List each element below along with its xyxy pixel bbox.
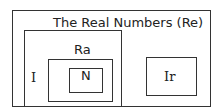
- rationals-label: Ra: [74, 43, 91, 56]
- integers-label: I: [31, 71, 36, 84]
- irrationals-label: Ir: [164, 70, 175, 83]
- naturals-label: N: [81, 69, 91, 82]
- real-numbers-label: The Real Numbers (Re): [53, 16, 203, 29]
